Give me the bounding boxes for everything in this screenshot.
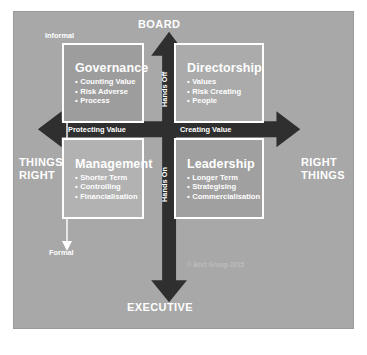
axis-band-label-creating-value: Creating Value [180, 125, 231, 134]
list-item: Financialisation [75, 191, 136, 201]
list-item: Controlling [75, 182, 136, 192]
pole-label-things-right-line2: RIGHT [19, 169, 63, 182]
axis-band-label-hands-off: Hands Off [160, 72, 169, 107]
copyright-notice: © Bret Group 2015 [187, 261, 244, 268]
quadrant-management-content: Management Shorter Term Controlling Fina… [75, 156, 136, 201]
pole-label-right-things-line2: THINGS [301, 169, 345, 182]
pole-label-things-right-line1: THINGS [19, 156, 63, 169]
scale-label-formal: Formal [49, 248, 74, 257]
axis-band-label-hands-on: Hands On [160, 167, 169, 202]
list-item: Commercialisation [187, 191, 256, 201]
list-item: People [187, 96, 256, 106]
list-item: Risk Adverse [75, 86, 136, 96]
quadrant-directorship-title: Directorship [187, 61, 256, 75]
scale-label-informal: Informal [45, 31, 74, 40]
pole-label-things-right: THINGS RIGHT [19, 156, 63, 181]
list-item: Longer Term [187, 172, 256, 182]
quadrant-directorship-bullets: Values Risk Creating People [187, 77, 256, 106]
list-item: Counting Value [75, 77, 136, 87]
quadrant-governance-bullets: Counting Value Risk Adverse Process [75, 77, 136, 106]
pole-label-executive: EXECUTIVE [127, 301, 193, 314]
axis-band-label-protecting-value: Protecting Value [68, 125, 126, 134]
list-item: Strategising [187, 182, 256, 192]
pole-label-right-things-line1: RIGHT [301, 156, 345, 169]
list-item: Risk Creating [187, 86, 256, 96]
pole-label-board: BOARD [138, 18, 180, 31]
quadrant-directorship-content: Directorship Values Risk Creating People [187, 61, 256, 106]
list-item: Process [75, 96, 136, 106]
list-item: Values [187, 77, 256, 87]
quadrant-management-bullets: Shorter Term Controlling Financialisatio… [75, 172, 136, 201]
quadrant-leadership[interactable]: Leadership Longer Term Strategising Comm… [174, 138, 264, 219]
quadrant-management-title: Management [75, 156, 136, 170]
list-item: Shorter Term [75, 172, 136, 182]
quadrant-governance[interactable]: Governance Counting Value Risk Adverse P… [62, 43, 144, 123]
quadrant-leadership-content: Leadership Longer Term Strategising Comm… [187, 156, 256, 201]
pole-label-right-things: RIGHT THINGS [301, 156, 345, 181]
quadrant-governance-title: Governance [75, 61, 136, 75]
quadrant-management[interactable]: Management Shorter Term Controlling Fina… [62, 138, 144, 219]
quadrant-leadership-title: Leadership [187, 156, 256, 170]
diagram-canvas: Informal Formal Governance Counting Valu… [13, 11, 354, 329]
quadrant-governance-content: Governance Counting Value Risk Adverse P… [75, 61, 136, 106]
quadrant-directorship[interactable]: Directorship Values Risk Creating People [174, 43, 264, 123]
quadrant-leadership-bullets: Longer Term Strategising Commercialisati… [187, 172, 256, 201]
